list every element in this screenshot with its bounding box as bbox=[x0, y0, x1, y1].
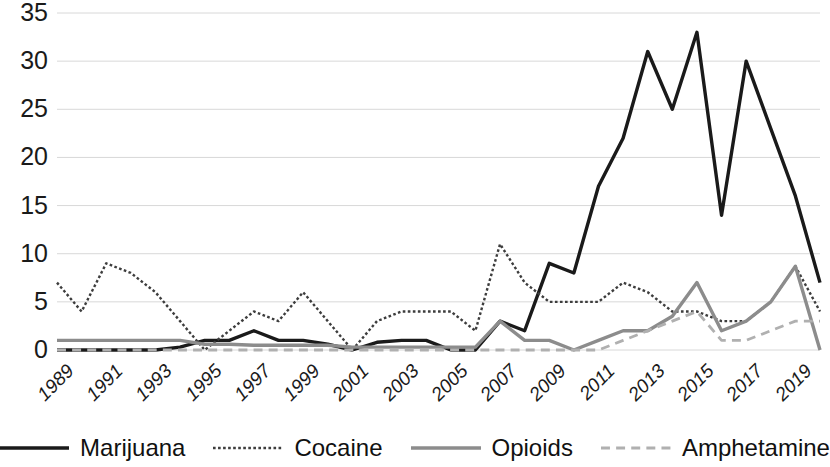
legend-label: Opioids bbox=[492, 434, 573, 462]
dotted-line-icon bbox=[211, 441, 285, 455]
legend-item-opioids[interactable]: Opioids bbox=[409, 434, 573, 462]
x-tick-label: 2001 bbox=[317, 360, 374, 417]
x-tick-label: 2011 bbox=[563, 360, 620, 417]
chart-legend: MarijuanaCocaineOpioidsAmphetamine bbox=[0, 428, 827, 467]
series-line-opioids bbox=[57, 266, 820, 350]
x-tick-label: 1995 bbox=[170, 360, 227, 417]
x-tick-label: 1999 bbox=[268, 360, 325, 417]
x-tick-label: 1997 bbox=[219, 360, 276, 417]
solid-gray-line-icon bbox=[409, 441, 483, 455]
x-tick-label: 2009 bbox=[514, 360, 571, 417]
legend-item-amphetamine[interactable]: Amphetamine bbox=[599, 434, 830, 462]
x-tick-label: 1993 bbox=[120, 360, 177, 417]
x-tick-label: 2005 bbox=[416, 360, 473, 417]
x-tick-label: 1991 bbox=[71, 360, 128, 417]
x-tick-label: 2015 bbox=[662, 360, 719, 417]
legend-label: Amphetamine bbox=[682, 434, 830, 462]
legend-item-marijuana[interactable]: Marijuana bbox=[0, 434, 185, 462]
legend-item-cocaine[interactable]: Cocaine bbox=[211, 434, 382, 462]
solid-line-icon bbox=[0, 441, 71, 455]
x-tick-label: 2007 bbox=[465, 360, 522, 417]
x-tick-label: 2013 bbox=[613, 360, 670, 417]
x-tick-label: 2017 bbox=[711, 360, 768, 417]
x-tick-label: 2003 bbox=[367, 360, 424, 417]
x-axis-tick-labels: 1989199119931995199719992001200320052007… bbox=[0, 352, 827, 422]
dashed-gray-line-icon bbox=[599, 441, 673, 455]
legend-label: Marijuana bbox=[80, 434, 185, 462]
legend-label: Cocaine bbox=[294, 434, 382, 462]
x-tick-label: 1989 bbox=[22, 360, 79, 417]
x-tick-label: 2019 bbox=[760, 360, 817, 417]
